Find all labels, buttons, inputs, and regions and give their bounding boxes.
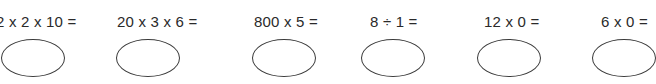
answer-oval[interactable]	[592, 39, 656, 77]
problem-expression: 2 x 2 x 10 =	[0, 13, 76, 30]
answer-oval[interactable]	[252, 39, 316, 77]
problem-expression: 800 x 5 =	[254, 13, 318, 30]
answer-oval[interactable]	[361, 39, 425, 77]
problem-expression: 20 x 3 x 6 =	[117, 13, 197, 30]
problem-expression: 6 x 0 =	[601, 13, 648, 30]
answer-oval[interactable]	[1, 39, 65, 77]
problem-expression: 12 x 0 =	[484, 13, 539, 30]
answer-oval[interactable]	[116, 39, 180, 77]
answer-oval[interactable]	[477, 39, 541, 77]
problem-expression: 8 ÷ 1 =	[370, 13, 418, 30]
